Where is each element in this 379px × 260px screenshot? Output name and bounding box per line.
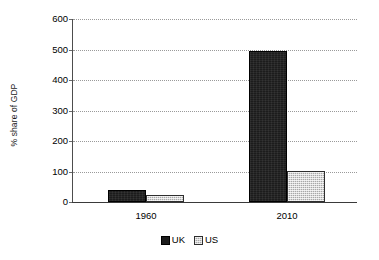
y-tickmark-200 xyxy=(69,141,72,142)
y-axis-tick-labels: 600 500 400 300 200 100 0 xyxy=(36,14,68,206)
y-tick-label: 200 xyxy=(36,136,68,146)
legend-entry-us: US xyxy=(194,235,218,245)
y-tick-label: 0 xyxy=(36,197,68,207)
legend-label-us: US xyxy=(205,235,218,245)
gridline-500 xyxy=(73,50,357,51)
legend-swatch-icon-us xyxy=(194,236,203,245)
legend-entry-uk: UK xyxy=(161,235,185,245)
x-axis-line xyxy=(72,202,357,203)
gridline-300 xyxy=(73,111,357,112)
gridline-400 xyxy=(73,80,357,81)
gridline-200 xyxy=(73,141,357,142)
chart-legend: UK US xyxy=(0,233,379,247)
y-tickmark-400 xyxy=(69,80,72,81)
legend-swatch-icon-uk xyxy=(161,236,170,245)
y-tick-label: 600 xyxy=(36,14,68,24)
bar-uk-1960 xyxy=(108,190,146,202)
x-tick-label-2010: 2010 xyxy=(247,210,327,222)
y-tick-label: 100 xyxy=(36,167,68,177)
y-tickmark-600 xyxy=(69,19,72,20)
bar-us-1960 xyxy=(146,195,184,202)
y-tickmark-500 xyxy=(69,50,72,51)
bar-chart: % share of GDP 600 500 400 300 200 100 0… xyxy=(0,0,379,260)
x-axis-tick-labels: 1960 2010 xyxy=(72,210,357,224)
y-tick-label: 500 xyxy=(36,45,68,55)
x-tick-label-1960: 1960 xyxy=(106,210,186,222)
gridline-600 xyxy=(73,19,357,20)
y-tickmark-300 xyxy=(69,111,72,112)
y-tickmark-0 xyxy=(69,202,72,203)
y-axis-title: % share of GDP xyxy=(7,60,21,170)
bar-uk-2010 xyxy=(249,51,287,202)
bar-us-2010 xyxy=(287,171,325,202)
legend-label-uk: UK xyxy=(172,235,185,245)
y-tickmark-100 xyxy=(69,172,72,173)
plot-area xyxy=(72,19,357,203)
y-tick-label: 400 xyxy=(36,75,68,85)
y-tick-label: 300 xyxy=(36,106,68,116)
